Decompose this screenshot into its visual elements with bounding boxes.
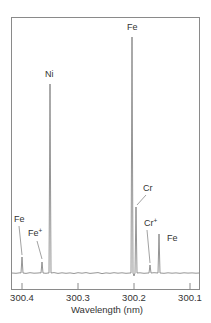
peak-label-ni: Ni xyxy=(45,69,54,79)
x-axis-title: Wavelength (nm) xyxy=(71,304,143,315)
leader-line-cr-plus xyxy=(147,230,150,263)
leader-line-cr xyxy=(137,195,146,205)
leader-line-fe-left xyxy=(19,226,22,255)
leader-line-fe-plus xyxy=(37,241,42,259)
peak-label-fe-plus: Fe+ xyxy=(28,227,43,238)
tick-label-300-1: 300.1 xyxy=(178,292,202,303)
peak-label-fe-main: Fe xyxy=(127,22,138,32)
peak-label-cr: Cr xyxy=(143,183,153,193)
plot-frame xyxy=(12,18,200,290)
tick-label-300-4: 300.4 xyxy=(10,292,34,303)
peak-label-fe-left: Fe xyxy=(14,214,25,224)
peak-label-fe-right: Fe xyxy=(167,233,178,243)
tick-label-300-2: 300.2 xyxy=(122,292,146,303)
spectrum-chart: 300.4 300.3 300.2 300.1 Wavelength (nm) … xyxy=(0,0,211,323)
tick-label-300-3: 300.3 xyxy=(66,292,90,303)
peak-label-cr-plus: Cr+ xyxy=(144,217,158,228)
